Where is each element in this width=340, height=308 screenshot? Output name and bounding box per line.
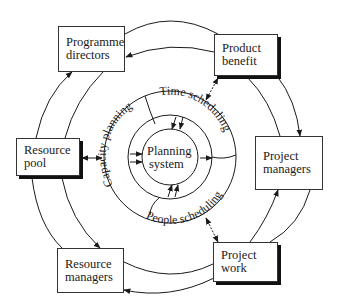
node-product-benefit: Product benefit	[214, 34, 278, 76]
node-label-line2: managers	[65, 271, 123, 284]
node-resource-managers: Resource managers	[57, 248, 124, 293]
planning-system-label: Planning system	[147, 145, 191, 171]
node-label-line1: Resource	[65, 258, 123, 271]
node-project-work: Project work	[213, 242, 278, 282]
node-label-line2: pool	[24, 157, 79, 170]
people-scheduling-label: People scheduling	[144, 188, 224, 227]
node-label-line2: benefit	[222, 55, 277, 68]
node-project-managers: Project managers	[255, 136, 323, 190]
node-programme-directors: Programme directors	[58, 26, 125, 72]
capacity-planning-label: Capacity planning	[95, 99, 135, 190]
node-label-line2: directors	[66, 49, 124, 62]
node-resource-pool: Resource pool	[16, 138, 80, 176]
center-line2: system	[147, 158, 191, 171]
node-label-line2: managers	[263, 163, 322, 176]
time-scheduling-label: Time scheduling	[159, 83, 235, 133]
node-label-line2: work	[221, 262, 277, 275]
